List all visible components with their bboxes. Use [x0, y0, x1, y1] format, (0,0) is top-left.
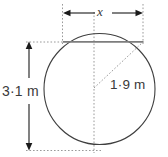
height-measurement-label: 3·1 m — [2, 84, 39, 98]
radius-measurement-label: 1·9 m — [110, 78, 146, 92]
width-variable-label: x — [97, 5, 103, 18]
arrowhead-down — [26, 143, 33, 151]
width-dimension-arrow — [63, 10, 143, 17]
arrowhead-up — [26, 42, 33, 50]
arrowhead-right — [136, 10, 144, 17]
circle-geometry-diagram: 3·1 m 1·9 m x — [0, 0, 168, 157]
arrowhead-left — [63, 10, 71, 17]
